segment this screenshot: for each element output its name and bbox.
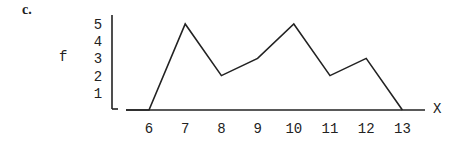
x-tick-label: 6: [145, 121, 153, 137]
y-tick-label: 5: [94, 17, 102, 33]
y-axis: [112, 15, 118, 109]
y-tick-label: 1: [94, 86, 102, 102]
x-tick-labels: 678910111213: [145, 121, 411, 137]
frequency-polygon-chart: 12345 678910111213: [0, 0, 465, 143]
frequency-line: [126, 24, 402, 110]
y-tick-labels: 12345: [94, 17, 102, 102]
x-tick-label: 13: [394, 121, 411, 137]
y-tick-label: 3: [94, 51, 102, 67]
x-tick-label: 11: [322, 121, 339, 137]
y-tick-label: 2: [94, 69, 102, 85]
y-tick-label: 4: [94, 34, 102, 50]
x-tick-label: 8: [217, 121, 225, 137]
x-tick-label: 7: [181, 121, 189, 137]
x-tick-label: 10: [285, 121, 302, 137]
x-tick-label: 12: [358, 121, 375, 137]
x-tick-label: 9: [253, 121, 261, 137]
